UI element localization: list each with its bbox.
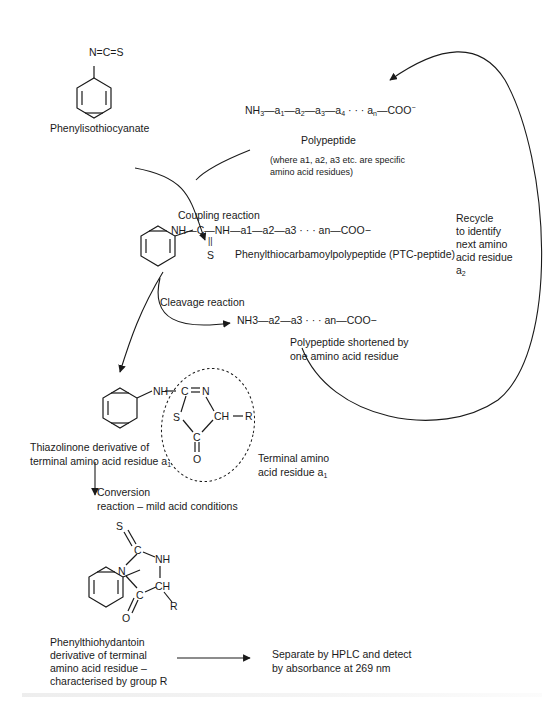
thz-r: R	[245, 410, 253, 422]
coupling-label: Coupling reaction	[178, 209, 260, 222]
polypeptide-formula: NH3—a1—a2—a3—a4 · · · an—COO−	[245, 104, 416, 117]
benzene-ring-thiazolinone	[103, 388, 152, 428]
ptc-name: Phenylthiocarbamoylpolypeptide (PTC-pept…	[235, 248, 455, 261]
thz-c2: C	[193, 431, 201, 443]
polypeptide-note-line2: amino acid residues)	[270, 166, 353, 178]
thz-c1: C	[181, 385, 189, 397]
thz-nh: NH	[153, 385, 168, 397]
reagent-name: Phenylisothiocyanate	[50, 122, 149, 135]
thiazolinone-label-line1: Thiazolinone derivative of	[30, 441, 149, 454]
detection-line2: by absorbance at 269 nm	[272, 662, 391, 675]
terminal-residue-line2: acid residue a1	[258, 466, 327, 482]
thz-ch: CH	[214, 410, 229, 422]
polypeptide-name: Polypeptide	[301, 134, 356, 147]
pth-c1: C	[134, 544, 142, 556]
thiazolinone-label-line2: terminal amino acid residue a1	[30, 455, 171, 471]
polypeptide-note-line1: (where a1, a2, a3 etc. are specific	[270, 154, 405, 166]
thz-o: O	[193, 453, 201, 465]
thz-n: N	[202, 385, 210, 397]
benzene-ring-reagent	[77, 66, 111, 118]
pth-o: O	[122, 612, 130, 624]
pth-ch: CH	[155, 580, 170, 592]
detection-line1: Separate by HPLC and detect	[272, 648, 412, 661]
thz-s: S	[173, 411, 180, 423]
conversion-line2: reaction – mild acid conditions	[97, 500, 238, 513]
conversion-line1: Conversion	[97, 486, 150, 499]
shortened-line2: one amino acid residue	[290, 350, 399, 363]
pth-s: S	[116, 520, 123, 532]
cleavage-label: Cleavage reaction	[160, 296, 245, 309]
pth-r: R	[170, 600, 178, 612]
recycle-label: Recycle to identify next amino acid resi…	[456, 212, 513, 280]
pth-nh: NH	[155, 553, 170, 565]
ptc-thio-atom: S	[207, 249, 214, 261]
faded-caption-strip	[22, 693, 542, 697]
reagent-formula: N=C=S	[89, 46, 123, 58]
shortened-formula: NH3—a2—a3 · · · an—COO−	[237, 314, 377, 326]
ptc-thio-double-bond: ||	[208, 236, 213, 246]
pth-c2: C	[136, 589, 144, 601]
shortened-line1: Polypeptide shortened by	[290, 336, 409, 349]
terminal-residue-line1: Terminal amino	[258, 452, 329, 465]
arrow-cleavage-to-thiazolinone	[120, 272, 163, 372]
pth-n: N	[118, 565, 126, 577]
arrow-polypeptide-to-coupling	[196, 150, 250, 180]
pth-label: Phenylthiohydantoin derivative of termin…	[50, 636, 167, 688]
ptc-formula: NH—C—NH—a1—a2—a3 · · · an—COO−	[171, 224, 371, 236]
